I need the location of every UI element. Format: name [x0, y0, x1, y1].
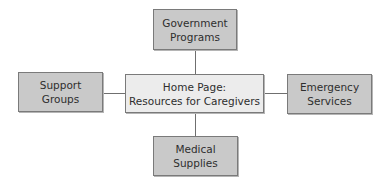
node-label-line2: Programs: [170, 30, 220, 44]
connector-right: [264, 93, 287, 94]
node-label-line1: Emergency: [300, 80, 359, 94]
node-label-line1: Support: [40, 78, 82, 92]
node-medical-supplies: Medical Supplies: [153, 136, 238, 176]
node-label-line1: Government: [162, 16, 227, 30]
node-home-page: Home Page: Resources for Caregivers: [125, 74, 264, 113]
connector-bottom: [195, 113, 196, 136]
node-label-line2: Groups: [42, 92, 79, 106]
node-label-line2: Supplies: [173, 156, 217, 170]
connector-left: [103, 93, 125, 94]
node-label-line1: Home Page:: [163, 80, 226, 94]
connector-top: [195, 50, 196, 74]
node-label-line2: Services: [307, 94, 351, 108]
node-emergency-services: Emergency Services: [287, 74, 372, 114]
node-government-programs: Government Programs: [153, 9, 237, 50]
node-label-line1: Medical: [175, 142, 215, 156]
node-support-groups: Support Groups: [18, 72, 103, 112]
node-label-line2: Resources for Caregivers: [129, 94, 260, 108]
